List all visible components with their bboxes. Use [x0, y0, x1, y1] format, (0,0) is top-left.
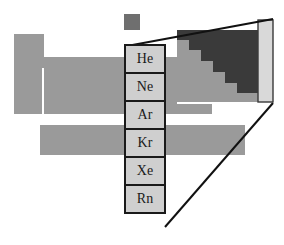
staircase-step-7 [237, 83, 258, 93]
staircase-step-6 [225, 72, 258, 83]
noble-gas-cell-rn[interactable]: Rn [125, 185, 165, 213]
noble-gas-cell-ne-label: Ne [137, 79, 153, 94]
noble-gas-cell-kr[interactable]: Kr [125, 129, 165, 157]
group2-notch-gap [42, 68, 44, 114]
noble-gas-cell-kr-label: Kr [138, 135, 153, 150]
magnified-region [177, 18, 274, 104]
staircase-step-1 [189, 30, 258, 40]
noble-gas-cell-rn-label: Rn [137, 191, 153, 206]
staircase-step-4 [201, 50, 258, 61]
noble-gas-cell-he-label: He [137, 51, 153, 66]
staircase-step-5 [213, 61, 258, 72]
figure-root: He Ne Ar Kr Xe [0, 0, 284, 245]
hydrogen-cell [124, 14, 140, 30]
noble-gas-cell-he[interactable]: He [125, 45, 165, 73]
noble-gas-cell-ne[interactable]: Ne [125, 73, 165, 101]
noble-gas-column[interactable]: He Ne Ar Kr Xe [125, 45, 165, 213]
noble-gas-cell-ar[interactable]: Ar [125, 101, 165, 129]
noble-gas-cell-ar-label: Ar [138, 107, 153, 122]
periodic-table-figure: He Ne Ar Kr Xe [0, 0, 284, 245]
magnified-noble-gas-strip [258, 20, 273, 102]
staircase-step-3 [189, 40, 258, 50]
noble-gas-cell-xe-label: Xe [137, 163, 153, 178]
noble-gas-cell-xe[interactable]: Xe [125, 157, 165, 185]
